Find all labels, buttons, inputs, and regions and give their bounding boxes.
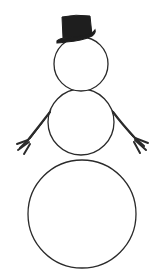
torso-snowball (48, 89, 114, 155)
snowman-drawing (0, 0, 163, 277)
head-snowball (54, 37, 108, 91)
